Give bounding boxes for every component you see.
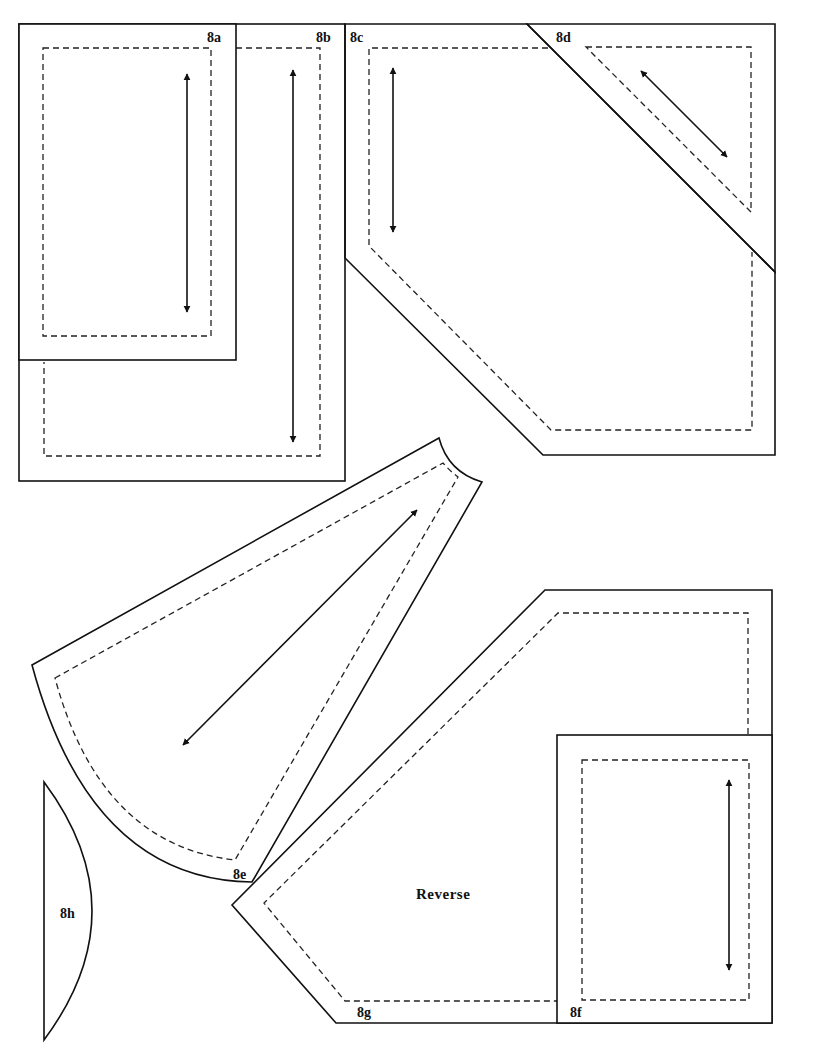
piece-8d-cut-line (527, 24, 775, 272)
piece-8a-cut-line (19, 24, 236, 360)
piece-8c-seam-line (369, 48, 752, 430)
piece-8f: 8f (557, 735, 772, 1023)
piece-8c-label: 8c (350, 30, 363, 45)
piece-8e-cut-line (32, 438, 482, 882)
piece-8f-label: 8f (570, 1005, 582, 1020)
piece-8h: 8h (44, 782, 92, 1040)
piece-8a-label: 8a (207, 30, 221, 45)
piece-8a: 8a (19, 24, 236, 360)
piece-8b-label: 8b (316, 30, 331, 45)
piece-8c: 8c (345, 24, 775, 455)
piece-8e-seam-line (55, 463, 458, 860)
piece-8e: 8e (32, 438, 482, 882)
piece-8h-label: 8h (60, 906, 75, 921)
piece-8e-grain-arrow-icon (183, 510, 417, 745)
reverse-note: Reverse (416, 886, 470, 902)
piece-8d-label: 8d (556, 30, 571, 45)
piece-8e-label: 8e (233, 867, 246, 882)
pattern-sheet: 8b 8a 8c 8d 8e Reverse 8g 8 (0, 0, 820, 1054)
piece-8c-cut-line (345, 24, 775, 455)
piece-8d: 8d (527, 24, 775, 272)
piece-8g-label: 8g (357, 1005, 371, 1020)
piece-8f-cut-line (557, 735, 772, 1023)
piece-8d-seam-line (586, 47, 751, 212)
